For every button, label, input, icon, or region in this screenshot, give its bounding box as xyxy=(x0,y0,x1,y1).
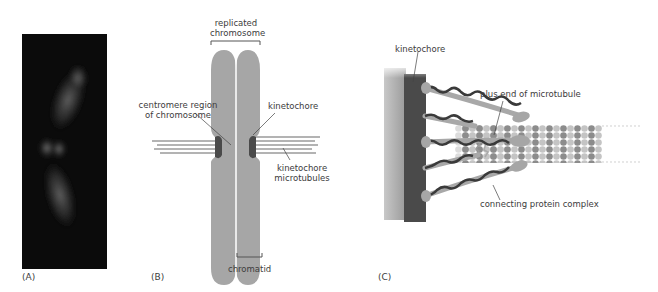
plus-end-label: plus end of microtubule xyxy=(480,89,581,99)
panel-c-label: (C) xyxy=(378,272,391,282)
kinetochore-label-c: kinetochore xyxy=(395,44,445,54)
connecting-protein-complexes xyxy=(421,82,531,202)
kinetochore-attachment-diagram xyxy=(0,0,658,292)
connecting-protein-complex-label: connecting protein complex xyxy=(480,199,599,209)
chromosome-block xyxy=(384,68,406,220)
microtubule-lattice xyxy=(455,125,640,163)
